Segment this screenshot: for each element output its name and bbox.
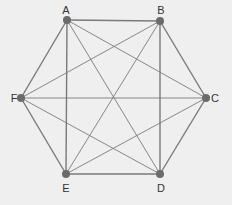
node-label-F: F (11, 92, 18, 104)
node-label-A: A (62, 4, 70, 16)
node-F (17, 94, 25, 102)
node-label-B: B (157, 4, 164, 16)
edge-D-F (21, 98, 160, 174)
node-D (156, 170, 164, 178)
edge-F-A (21, 20, 67, 98)
edge-A-B (67, 20, 160, 21)
node-label-C: C (211, 92, 219, 104)
edge-C-E (66, 98, 206, 174)
edge-C-D (160, 98, 206, 174)
node-B (156, 17, 164, 25)
node-E (62, 170, 70, 178)
node-label-D: D (157, 182, 165, 194)
edge-A-E (66, 20, 67, 174)
node-label-E: E (62, 182, 69, 194)
graph-diagram: ABCDEF (0, 0, 232, 205)
edges (21, 20, 206, 174)
node-C (202, 94, 210, 102)
edge-E-F (21, 98, 66, 174)
edge-B-F (21, 21, 160, 98)
edge-B-C (160, 21, 206, 98)
node-A (63, 16, 71, 24)
